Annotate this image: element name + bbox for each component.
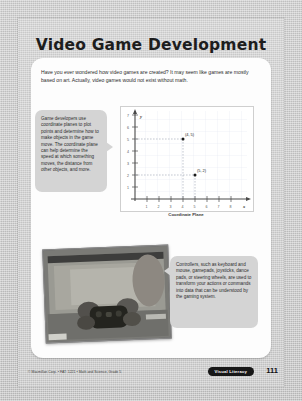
svg-text:(5, 2): (5, 2) — [197, 168, 207, 173]
intro-paragraph: Have you ever wondered how video games a… — [41, 68, 259, 84]
page-background: Video Game Development Have you ever won… — [0, 0, 302, 401]
controller-photo — [42, 245, 172, 344]
svg-text:5: 5 — [127, 138, 129, 142]
callout-right-text: Controllers, such as keyboard and mouse,… — [176, 262, 251, 299]
svg-text:3: 3 — [170, 205, 172, 209]
svg-text:4: 4 — [182, 205, 184, 209]
footer-copyright: © Macmillan Corp. • FAT: 1221 • Math and… — [28, 370, 121, 374]
visual-literacy-badge: Visual Literacy — [208, 367, 254, 376]
coordinate-plane-svg: y x 1 2 3 4 5 6 7 — [121, 107, 253, 211]
coordinate-plane-chart: y x 1 2 3 4 5 6 7 — [120, 106, 254, 212]
page-number: 111 — [266, 366, 278, 375]
svg-text:7: 7 — [218, 205, 220, 209]
svg-text:5: 5 — [194, 205, 196, 209]
callout-left: Game developers use coordinate planes to… — [35, 110, 107, 192]
coordinate-plane-figure: y x 1 2 3 4 5 6 7 — [120, 106, 252, 230]
callout-right-tail — [164, 266, 171, 276]
svg-text:(4, 5): (4, 5) — [185, 132, 195, 137]
controller-photo-svg — [43, 246, 170, 343]
callout-right: Controllers, such as keyboard and mouse,… — [170, 256, 258, 328]
svg-text:x: x — [242, 204, 246, 209]
svg-text:4: 4 — [127, 150, 129, 154]
page-title: Video Game Development — [18, 36, 284, 54]
svg-text:1: 1 — [127, 186, 129, 190]
svg-text:1: 1 — [146, 205, 148, 209]
svg-text:2: 2 — [158, 205, 160, 209]
svg-text:6: 6 — [127, 126, 129, 130]
svg-text:6: 6 — [206, 205, 208, 209]
svg-text:y: y — [139, 114, 142, 119]
svg-text:3: 3 — [127, 162, 129, 166]
svg-text:8: 8 — [230, 205, 232, 209]
svg-text:2: 2 — [127, 174, 129, 178]
svg-text:7: 7 — [127, 114, 129, 118]
callout-left-text: Game developers use coordinate planes to… — [41, 116, 99, 172]
figure-caption: Coordinate Plane — [120, 212, 252, 217]
callout-left-tail — [106, 142, 113, 152]
